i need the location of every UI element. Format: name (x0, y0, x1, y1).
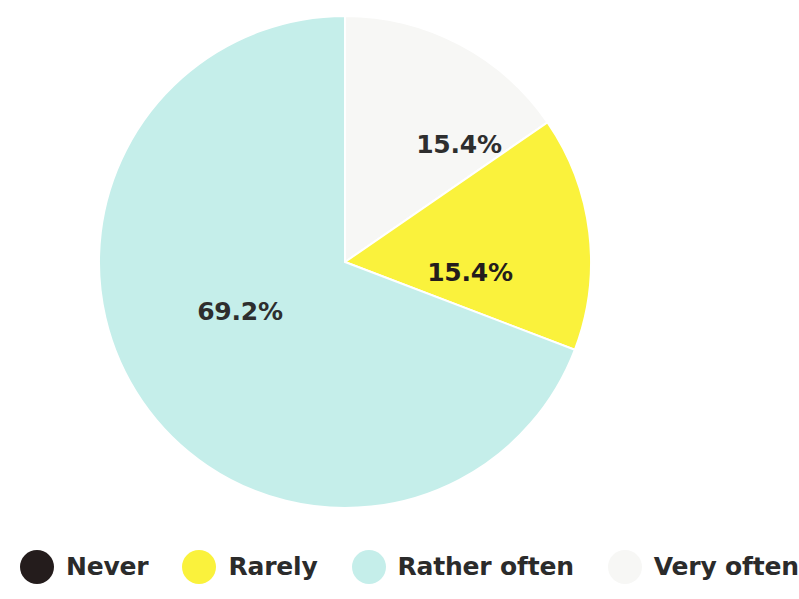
slice-label-very-often: 15.4% (416, 132, 502, 157)
legend-item-very-often[interactable]: Very often (608, 550, 799, 584)
slice-label-rather-often: 69.2% (197, 299, 283, 324)
chart-legend: NeverRarelyRather oftenVery often (0, 534, 694, 599)
legend-swatch-icon (182, 550, 216, 584)
legend-swatch-icon (20, 550, 54, 584)
pie-plot-area: 15.4% 15.4% 69.2% (0, 0, 694, 530)
legend-swatch-icon (352, 550, 386, 584)
legend-item-label: Rather often (398, 554, 574, 579)
legend-swatch-icon (608, 550, 642, 584)
legend-item-label: Very often (654, 554, 799, 579)
slice-label-rarely: 15.4% (427, 260, 513, 285)
pie-svg (0, 0, 694, 530)
legend-item-never[interactable]: Never (20, 550, 148, 584)
legend-item-rarely[interactable]: Rarely (182, 550, 317, 584)
legend-item-rather-often[interactable]: Rather often (352, 550, 574, 584)
legend-item-label: Rarely (228, 554, 317, 579)
pie-slice-group (99, 16, 591, 508)
legend-item-label: Never (66, 554, 148, 579)
